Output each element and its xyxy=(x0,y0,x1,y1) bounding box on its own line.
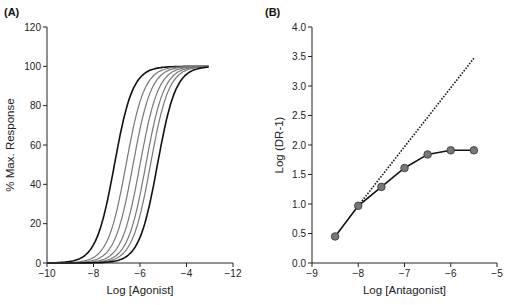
dose-response-curve xyxy=(47,66,209,263)
y-tick-label: 1.5 xyxy=(292,169,306,180)
figure: (A)020406080100120−10−8−6−4−12Log [Agoni… xyxy=(0,0,507,305)
x-tick-label: −9 xyxy=(306,268,318,279)
x-tick-label: −7 xyxy=(399,268,411,279)
x-tick-label: −6 xyxy=(445,268,457,279)
x-tick-label: −8 xyxy=(88,268,100,279)
dose-response-curve xyxy=(47,67,209,263)
y-axis-label: Log (DR-1) xyxy=(273,116,285,173)
x-tick-label: −6 xyxy=(134,268,146,279)
x-tick-label: −5 xyxy=(491,268,503,279)
panel-b-label: (B) xyxy=(265,6,281,18)
dose-response-curve xyxy=(47,66,209,263)
y-tick-label: 80 xyxy=(30,100,42,111)
data-point xyxy=(401,164,409,172)
dose-response-curve xyxy=(47,67,209,263)
y-tick-label: 20 xyxy=(30,218,42,229)
panel-b: (B)0.00.51.01.52.02.53.03.54.0−9−8−7−6−5… xyxy=(265,6,503,296)
y-tick-label: 4.0 xyxy=(292,22,306,33)
y-tick-label: 0 xyxy=(35,258,41,269)
x-tick-label: −10 xyxy=(39,268,56,279)
y-tick-label: 60 xyxy=(30,140,42,151)
y-tick-label: 0.5 xyxy=(292,228,306,239)
panel-a: (A)020406080100120−10−8−6−4−12Log [Agoni… xyxy=(4,6,242,296)
schild-line xyxy=(335,150,474,236)
y-tick-label: 40 xyxy=(30,179,42,190)
x-axis-label: Log [Antagonist] xyxy=(363,284,446,296)
unity-line xyxy=(358,58,474,206)
x-axis-label: Log [Agonist] xyxy=(106,284,173,296)
y-tick-label: 2.0 xyxy=(292,140,306,151)
x-tick-label: −8 xyxy=(353,268,365,279)
dose-response-curve xyxy=(47,66,209,263)
dose-response-curve xyxy=(47,66,209,263)
y-tick-label: 1.0 xyxy=(292,199,306,210)
dose-response-curve xyxy=(47,67,209,264)
y-tick-label: 100 xyxy=(24,61,41,72)
y-tick-label: 3.0 xyxy=(292,81,306,92)
x-tick-label: −4 xyxy=(181,268,193,279)
panel-a-label: (A) xyxy=(4,6,20,18)
x-tick-label: −12 xyxy=(225,268,242,279)
data-point xyxy=(331,233,339,241)
data-point xyxy=(470,147,478,155)
y-tick-label: 2.5 xyxy=(292,110,306,121)
data-point xyxy=(354,202,362,210)
data-point xyxy=(447,147,455,155)
y-tick-label: 120 xyxy=(24,22,41,33)
y-axis-label: % Max. Response xyxy=(4,98,16,191)
y-tick-label: 0.0 xyxy=(292,258,306,269)
data-point xyxy=(424,151,432,159)
data-point xyxy=(378,183,386,191)
y-tick-label: 3.5 xyxy=(292,51,306,62)
